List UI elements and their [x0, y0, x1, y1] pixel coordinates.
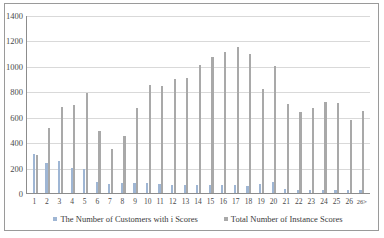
x-tick-label: 19 [255, 196, 268, 208]
bar-group [67, 16, 80, 193]
x-tick-label: 26> [355, 196, 368, 208]
y-tick-label: 0 [19, 190, 23, 199]
bar-group [305, 16, 318, 193]
bar [362, 111, 364, 193]
bar [224, 52, 226, 193]
bar-group [356, 16, 369, 193]
bar [186, 78, 188, 193]
y-tick-label: 200 [10, 164, 23, 173]
bar [262, 89, 264, 193]
bar [86, 93, 88, 193]
bar [61, 107, 63, 193]
bar [36, 155, 38, 193]
bar [274, 66, 276, 193]
x-tick-label: 3 [53, 196, 66, 208]
x-tick-label: 11 [154, 196, 167, 208]
x-tick-label: 4 [66, 196, 79, 208]
x-tick-label: 8 [116, 196, 129, 208]
bar [199, 65, 201, 193]
bar [312, 108, 314, 193]
y-tick-label: 1400 [6, 12, 23, 21]
bar [48, 128, 50, 193]
bar [174, 79, 176, 193]
x-tick-label: 15 [204, 196, 217, 208]
x-tick-label: 2 [41, 196, 54, 208]
chart-legend: The Number of Customers with i ScoresTot… [26, 212, 370, 226]
x-tick-label: 1 [28, 196, 41, 208]
bar-group [255, 16, 268, 193]
y-tick-label: 1200 [6, 37, 23, 46]
x-axis-labels: 1234567891011121314151617181920212223242… [26, 196, 370, 208]
bar [287, 104, 289, 193]
bar-group [217, 16, 230, 193]
x-tick-label: 24 [318, 196, 331, 208]
x-tick-label: 22 [292, 196, 305, 208]
bar [149, 85, 151, 193]
y-tick-label: 800 [10, 88, 23, 97]
legend-item[interactable]: Total Number of Instance Scores [224, 215, 343, 224]
x-tick-label: 9 [129, 196, 142, 208]
x-tick-label: 25 [330, 196, 343, 208]
bar-group [79, 16, 92, 193]
bar-group [331, 16, 344, 193]
bar [98, 131, 100, 193]
bar-group [318, 16, 331, 193]
y-tick-label: 400 [10, 139, 23, 148]
x-tick-label: 16 [217, 196, 230, 208]
y-tick-label: 1000 [6, 63, 23, 72]
bar-group [42, 16, 55, 193]
bar-group [205, 16, 218, 193]
bar-group [92, 16, 105, 193]
x-tick-label: 10 [141, 196, 154, 208]
bar-group [243, 16, 256, 193]
legend-item[interactable]: The Number of Customers with i Scores [53, 215, 197, 224]
bar-group [29, 16, 42, 193]
x-tick-label: 26 [343, 196, 356, 208]
bar [237, 47, 239, 193]
bar [161, 86, 163, 193]
x-tick-label: 14 [192, 196, 205, 208]
bar-group [117, 16, 130, 193]
bar-group [155, 16, 168, 193]
bar [324, 102, 326, 193]
bar [337, 103, 339, 193]
plot-area [26, 16, 370, 194]
bar [73, 105, 75, 193]
legend-swatch-icon [224, 217, 228, 221]
bar-group [104, 16, 117, 193]
bar [350, 120, 352, 193]
bar [299, 112, 301, 193]
x-tick-label: 7 [104, 196, 117, 208]
bar-group [268, 16, 281, 193]
y-axis-labels: 0200400600800100012001400 [0, 0, 26, 194]
bar-group [54, 16, 67, 193]
bar [249, 54, 251, 193]
bar-groups [27, 16, 370, 193]
legend-label: Total Number of Instance Scores [231, 215, 343, 224]
bar [211, 57, 213, 193]
x-tick-label: 20 [267, 196, 280, 208]
bar-group [142, 16, 155, 193]
bar-group [192, 16, 205, 193]
x-tick-label: 21 [280, 196, 293, 208]
bar [136, 108, 138, 193]
x-tick-label: 5 [78, 196, 91, 208]
bar-group [280, 16, 293, 193]
chart-figure: 0200400600800100012001400 12345678910111… [0, 0, 384, 238]
bar-group [343, 16, 356, 193]
y-tick-label: 600 [10, 113, 23, 122]
x-tick-label: 13 [179, 196, 192, 208]
x-tick-label: 17 [230, 196, 243, 208]
x-tick-label: 6 [91, 196, 104, 208]
legend-swatch-icon [53, 217, 57, 221]
legend-label: The Number of Customers with i Scores [60, 215, 197, 224]
bar-group [130, 16, 143, 193]
bar [123, 136, 125, 193]
bar-group [180, 16, 193, 193]
x-tick-label: 12 [167, 196, 180, 208]
bar-group [293, 16, 306, 193]
bar-group [167, 16, 180, 193]
bar-group [230, 16, 243, 193]
x-tick-label: 23 [305, 196, 318, 208]
x-tick-label: 18 [242, 196, 255, 208]
